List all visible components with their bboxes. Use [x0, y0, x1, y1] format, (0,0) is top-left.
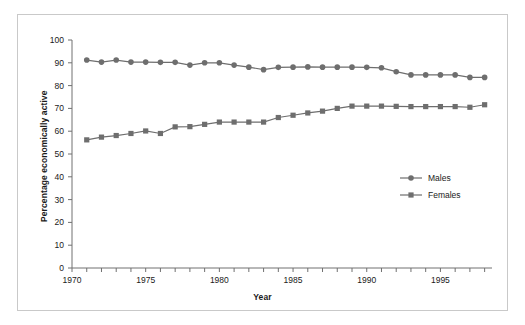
y-tick-label: 60 [32, 126, 64, 136]
y-tick-label: 70 [32, 103, 64, 113]
x-tick-label: 1995 [420, 275, 460, 285]
y-tick-label: 80 [32, 81, 64, 91]
y-tick-label: 30 [32, 195, 64, 205]
legend-entry-females[interactable] [400, 192, 422, 197]
x-tick-label: 1990 [347, 275, 387, 285]
x-tick-label: 1980 [199, 275, 239, 285]
x-tick-label: 1985 [273, 275, 313, 285]
y-tick-label: 50 [32, 149, 64, 159]
legend-entry-males[interactable] [400, 175, 422, 181]
x-tick-label: 1975 [126, 275, 166, 285]
y-tick-label: 0 [32, 263, 64, 273]
y-tick-label: 20 [32, 217, 64, 227]
legend-label-males: Males [428, 173, 451, 183]
x-tick-label: 1970 [52, 275, 92, 285]
series-males [84, 57, 487, 80]
legend-label-females: Females [428, 190, 461, 200]
series-females [84, 102, 487, 142]
chart-plot-area: Percentage economically active Year 0102… [0, 0, 525, 325]
y-tick-label: 90 [32, 58, 64, 68]
y-tick-label: 100 [32, 35, 64, 45]
y-tick-label: 10 [32, 240, 64, 250]
y-tick-label: 40 [32, 172, 64, 182]
